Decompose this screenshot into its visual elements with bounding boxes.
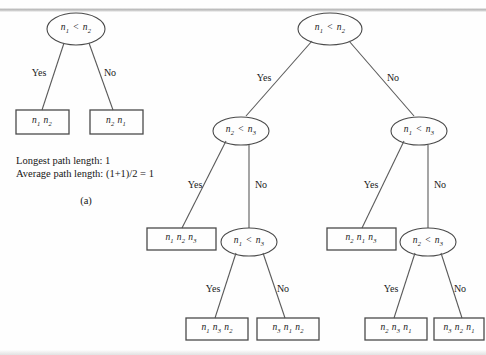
tree-b-node-l3-left-label: n1 < n3 xyxy=(234,236,265,247)
tree-b-leaf-label-l4-1: n1n3n2 xyxy=(201,323,232,334)
tree-b-leaf-label-l4-4: n3n2n1 xyxy=(443,323,474,334)
tree-b-edge-root-no xyxy=(349,41,414,116)
tree-a-leaf-label-2: n2n1 xyxy=(106,116,126,127)
caption-longest-path: Longest path length: 1 xyxy=(16,156,110,167)
tree-a-leaf-label-1: n1n2 xyxy=(32,116,52,127)
tree-b-edge-label-l3l-no: No xyxy=(277,284,289,294)
tree-b-edge-label-l2l-no: No xyxy=(255,180,267,190)
tree-b-edge-label-root-no: No xyxy=(387,73,399,83)
tree-a-edge-label-no: No xyxy=(104,68,116,78)
tree-b-node-l3-right-label: n2 < n3 xyxy=(413,236,444,247)
tree-b-root-label: n1 < n2 xyxy=(315,23,346,34)
tree-b-leaf-label-l4-3: n2n3n1 xyxy=(380,323,411,334)
tree-b-edge-label-l2l-yes: Yes xyxy=(188,180,203,190)
tree-b-leaf-label-l3-2: n2n1n3 xyxy=(345,233,376,244)
figure-part-label: (a) xyxy=(80,196,92,207)
tree-b-edge-label-l3r-yes: Yes xyxy=(384,284,399,294)
tree-b-node-l2-right-label: n1 < n3 xyxy=(404,125,435,136)
tree-b-leaf-label-l3-1: n1n2n3 xyxy=(165,233,196,244)
tree-b-edge-label-l2r-yes: Yes xyxy=(364,180,379,190)
tree-b-edge-label-l3r-no: No xyxy=(454,284,466,294)
tree-b-leaf-label-l4-2: n3n1n2 xyxy=(272,323,303,334)
tree-a-edge-label-yes: Yes xyxy=(32,68,47,78)
figure-canvas: n1 < n2 Yes No n1n2 n2n1 Longest path le… xyxy=(0,0,486,355)
tree-b-edge-label-root-yes: Yes xyxy=(257,73,272,83)
caption-average-path: Average path length: (1+1)/2 = 1 xyxy=(16,169,154,180)
tree-b-node-l2-left-label: n2 < n3 xyxy=(226,125,257,136)
tree-b-edge-label-l3l-yes: Yes xyxy=(206,284,221,294)
tree-b-edge-label-l2r-no: No xyxy=(434,180,446,190)
tree-a-root-label: n1 < n2 xyxy=(61,23,92,34)
